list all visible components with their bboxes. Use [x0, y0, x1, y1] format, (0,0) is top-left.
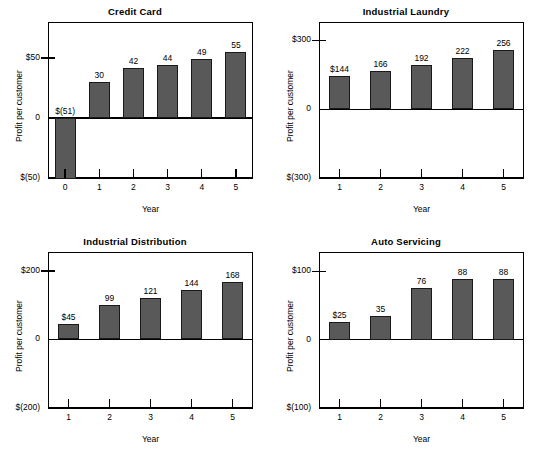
bar — [222, 282, 243, 340]
bar — [225, 52, 246, 118]
bar-value-label: 55 — [213, 40, 259, 50]
x-tick-mark — [109, 399, 110, 408]
x-tick-mark — [232, 399, 233, 408]
x-tick-mark — [99, 169, 100, 178]
x-tick-mark — [503, 399, 504, 408]
chart-title-auto-servicing: Auto Servicing — [271, 236, 541, 247]
y-axis-title: Profit per customer — [285, 300, 295, 372]
x-tick-label: 5 — [222, 412, 244, 422]
x-tick-label: 4 — [181, 412, 203, 422]
x-tick-mark — [201, 169, 202, 178]
bar — [191, 59, 212, 118]
x-tick-mark — [339, 169, 340, 178]
x-tick-label: 2 — [99, 412, 121, 422]
x-tick-label: 4 — [452, 412, 474, 422]
y-tick-mark — [312, 271, 326, 272]
y-tick-mark — [312, 40, 326, 41]
bar — [411, 65, 432, 109]
bar-value-label: 222 — [440, 46, 486, 56]
x-tick-mark — [167, 169, 168, 178]
y-tick-label: $(50) — [0, 172, 40, 182]
x-tick-label: 3 — [411, 412, 433, 422]
x-tick-mark — [191, 399, 192, 408]
x-tick-label: 2 — [370, 412, 392, 422]
chart-panel-industrial-distribution: Industrial Distribution$2000$(200)Profit… — [0, 230, 270, 460]
bar-value-label: 192 — [399, 53, 445, 63]
bar — [452, 279, 473, 339]
chart-title-credit-card: Credit Card — [0, 6, 270, 17]
y-tick-label: $200 — [0, 265, 40, 275]
x-tick-mark — [503, 169, 504, 178]
bar — [452, 58, 473, 109]
y-tick-label: $300 — [267, 34, 311, 44]
y-tick-mark — [41, 57, 55, 58]
bar-value-label: $45 — [46, 312, 92, 322]
x-tick-label: 1 — [88, 182, 110, 192]
x-tick-label: 3 — [411, 182, 433, 192]
bar-value-label: 88 — [481, 267, 527, 277]
x-tick-mark — [462, 399, 463, 408]
y-tick-label: $(200) — [0, 402, 40, 412]
x-tick-label: 1 — [58, 412, 80, 422]
x-axis-line — [48, 177, 253, 178]
chart-title-industrial-distribution: Industrial Distribution — [0, 236, 270, 247]
y-axis-title: Profit per customer — [285, 70, 295, 142]
x-tick-label: 4 — [191, 182, 213, 192]
bar — [181, 290, 202, 339]
bar-value-label: $144 — [317, 64, 363, 74]
bar — [58, 324, 79, 339]
chart-panel-credit-card: Credit Card$500$(50)Profit per customer$… — [0, 0, 270, 230]
y-tick-label: $100 — [267, 265, 311, 275]
x-tick-mark — [133, 169, 134, 178]
bar — [370, 71, 391, 109]
chart-panel-industrial-laundry: Industrial Laundry$3000$(300)Profit per … — [271, 0, 541, 230]
x-tick-mark — [235, 169, 236, 178]
x-tick-label: 3 — [157, 182, 179, 192]
x-axis-title: Year — [319, 434, 524, 444]
x-tick-mark — [380, 399, 381, 408]
bar — [493, 50, 514, 109]
bar-value-label: 166 — [358, 59, 404, 69]
x-tick-label: 5 — [225, 182, 247, 192]
bar-value-label: 35 — [358, 304, 404, 314]
bar-value-label: 30 — [76, 70, 122, 80]
x-tick-label: 2 — [122, 182, 144, 192]
x-tick-label: 0 — [54, 182, 76, 192]
bar-value-label: 144 — [169, 278, 215, 288]
bar — [157, 65, 178, 118]
x-axis-title: Year — [319, 204, 524, 214]
chart-panel-auto-servicing: Auto Servicing$1000$(100)Profit per cust… — [271, 230, 541, 460]
x-tick-label: 1 — [329, 182, 351, 192]
bar-value-label: 256 — [481, 38, 527, 48]
x-tick-mark — [380, 169, 381, 178]
chart-grid: Credit Card$500$(50)Profit per customer$… — [0, 0, 541, 461]
bar — [99, 305, 120, 339]
x-tick-mark — [462, 169, 463, 178]
x-tick-mark — [68, 399, 69, 408]
bar-value-label: 88 — [440, 267, 486, 277]
x-tick-label: 2 — [370, 182, 392, 192]
bar — [89, 82, 110, 118]
y-tick-label: $50 — [0, 52, 40, 62]
bar-value-label: 99 — [87, 293, 133, 303]
y-axis-title: Profit per customer — [14, 70, 24, 142]
zero-baseline — [48, 117, 253, 118]
bar — [329, 322, 350, 339]
bar — [140, 298, 161, 339]
bar-value-label: $(51) — [42, 106, 88, 116]
x-axis-title: Year — [48, 204, 253, 214]
bar — [329, 76, 350, 109]
y-tick-label: $(300) — [267, 172, 311, 182]
x-axis-title: Year — [48, 434, 253, 444]
x-tick-label: 4 — [452, 182, 474, 192]
x-tick-label: 3 — [140, 412, 162, 422]
x-tick-mark — [421, 169, 422, 178]
bar-value-label: $25 — [317, 310, 363, 320]
x-tick-label: 1 — [329, 412, 351, 422]
bar — [123, 68, 144, 118]
bar — [411, 288, 432, 340]
x-tick-mark — [339, 399, 340, 408]
bar — [370, 316, 391, 340]
x-tick-mark — [64, 169, 65, 178]
x-tick-mark — [150, 399, 151, 408]
